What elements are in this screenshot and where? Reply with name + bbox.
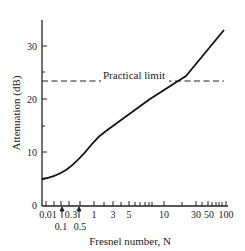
svg-text:1: 1 — [92, 209, 97, 220]
y-axis-title: Attenuation (dB) — [10, 75, 23, 150]
x-axis-title: Fresnel number, N — [89, 235, 171, 247]
svg-text:50: 50 — [204, 209, 214, 220]
svg-text:30: 30 — [191, 209, 201, 220]
svg-text:10: 10 — [159, 209, 169, 220]
y-tick-labels: 0 10 20 30 — [27, 41, 37, 211]
y-ticks — [42, 46, 47, 179]
svg-text:100: 100 — [219, 209, 234, 220]
svg-text:3: 3 — [111, 209, 116, 220]
svg-text:0.01: 0.01 — [39, 209, 57, 220]
svg-text:5: 5 — [127, 209, 132, 220]
svg-text:0.5: 0.5 — [74, 221, 87, 232]
x-ticks — [46, 201, 226, 206]
x-tick-labels: 0.01 0.3 1 3 5 10 30 50 100 0.1 0.5 — [39, 209, 233, 232]
practical-limit-label: Practical limit — [103, 69, 165, 81]
svg-text:0.1: 0.1 — [55, 221, 68, 232]
attenuation-chart: 0 10 20 30 0.0 — [0, 0, 245, 251]
attenuation-curve — [42, 30, 224, 179]
svg-text:20: 20 — [27, 94, 37, 105]
svg-text:0: 0 — [32, 200, 37, 211]
svg-text:10: 10 — [27, 147, 37, 158]
svg-text:30: 30 — [27, 41, 37, 52]
svg-text:0.3: 0.3 — [65, 209, 78, 220]
